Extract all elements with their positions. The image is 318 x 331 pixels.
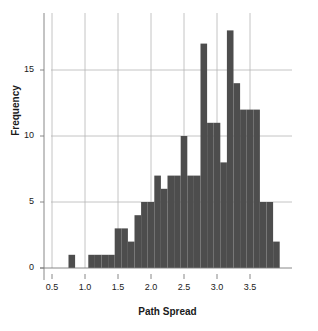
histogram-bar [227,30,234,268]
histogram-bar [247,110,254,268]
x-axis-label: Path Spread [45,306,290,317]
y-tick-label: 10 [8,130,34,140]
histogram-bar [187,176,194,268]
histogram-bar [135,215,142,268]
histogram-bar [168,176,175,268]
x-tick-label: 1.5 [103,282,133,292]
y-tick-label: 15 [8,64,34,74]
histogram-bar [161,189,168,268]
histogram-bar [128,242,135,268]
x-tick-label: 2.5 [169,282,199,292]
histogram-bar [201,44,208,268]
histogram-figure: Frequency Path Spread 051015 0.51.01.52.… [0,0,318,331]
histogram-bar [88,255,95,268]
histogram-bars [69,30,280,268]
x-tick-label: 3.5 [235,282,265,292]
histogram-bar [121,228,128,268]
histogram-bar [240,110,247,268]
x-tick-label: 1.0 [70,282,100,292]
histogram-bar [273,242,280,268]
histogram-bar [260,202,267,268]
histogram-bar [141,202,148,268]
histogram-bar [194,176,201,268]
x-tick-label: 2.0 [136,282,166,292]
histogram-bar [253,110,260,268]
histogram-bar [108,255,115,268]
x-tick-label: 0.5 [37,282,67,292]
histogram-bar [154,176,161,268]
histogram-bar [207,123,214,268]
histogram-bar [174,176,181,268]
histogram-bar [220,162,227,268]
y-tick-label: 0 [8,262,34,272]
x-tick-label: 3.0 [202,282,232,292]
histogram-bar [234,83,241,268]
histogram-bar [115,228,122,268]
histogram-bar [267,202,274,268]
y-tick-label: 5 [8,196,34,206]
histogram-bar [95,255,102,268]
histogram-bar [102,255,109,268]
histogram-bar [69,255,76,268]
histogram-bar [214,123,221,268]
histogram-bar [181,136,188,268]
histogram-bar [148,202,155,268]
y-axis-label: Frequency [10,66,21,156]
